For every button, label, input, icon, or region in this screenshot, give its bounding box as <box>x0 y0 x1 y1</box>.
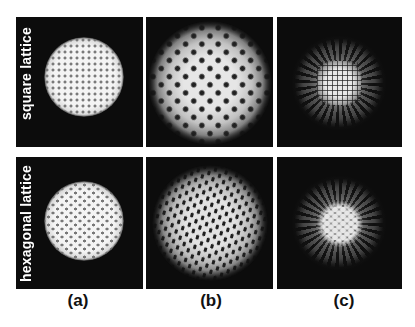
panel-a-hexagonal-lattice: hexagonal lattice <box>16 157 143 289</box>
row-label-square-lattice: square lattice <box>18 27 32 120</box>
square-lattice-central-grid <box>317 61 361 105</box>
column-label-a: (a) <box>48 291 108 311</box>
panel-b-square-lattice <box>146 17 273 147</box>
column-label-c: (c) <box>314 291 374 311</box>
column-label-b: (b) <box>181 291 241 311</box>
square-lattice-blurred-image <box>146 17 273 147</box>
hexagonal-lattice-disk-image <box>44 181 124 261</box>
panel-c-hexagonal-lattice <box>277 157 402 289</box>
square-lattice-disk-image <box>44 37 124 117</box>
panel-b-hexagonal-lattice <box>146 157 273 289</box>
row-label-hexagonal-lattice: hexagonal lattice <box>18 165 32 282</box>
panel-c-square-lattice <box>277 17 402 147</box>
panel-a-square-lattice: square lattice <box>16 17 143 147</box>
hexagonal-lattice-central-spots <box>315 199 365 249</box>
hexagonal-lattice-blurred-image <box>146 157 273 289</box>
